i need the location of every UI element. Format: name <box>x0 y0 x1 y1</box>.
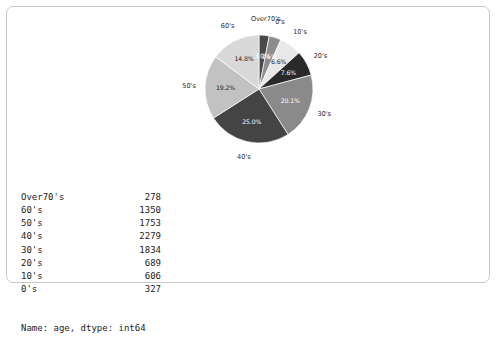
series-dtype-line: Name: age, dtype: int64 <box>21 322 161 335</box>
pie-percent-label-60s: 14.8% <box>234 56 253 62</box>
series-row: 40's2279 <box>21 230 161 243</box>
series-row-index: 10's <box>21 270 107 283</box>
series-row-value: 327 <box>107 283 161 296</box>
series-row-value: 1753 <box>107 217 161 230</box>
series-row: 20's689 <box>21 257 161 270</box>
series-row-index: 30's <box>21 244 107 257</box>
pie-category-label-20s: 20's <box>314 52 328 59</box>
series-row-value: 278 <box>107 191 161 204</box>
series-row-value: 2279 <box>107 230 161 243</box>
series-row-index: 60's <box>21 204 107 217</box>
pie-chart: 3.0%3.6%6.6%7.6%20.1%25.0%19.2%14.8% Ove… <box>167 15 352 165</box>
series-row-value: 1834 <box>107 244 161 257</box>
pie-category-label-60s: 60's <box>221 23 235 30</box>
pie-category-label-50s: 50's <box>182 83 196 90</box>
series-row-value: 1350 <box>107 204 161 217</box>
series-row: 30's1834 <box>21 244 161 257</box>
pie-percent-label-50s: 19.2% <box>216 85 235 91</box>
pie-category-label-30s: 30's <box>317 111 331 118</box>
series-row-index: 20's <box>21 257 107 270</box>
series-row: 0's327 <box>21 283 161 296</box>
series-row-value: 689 <box>107 257 161 270</box>
pie-category-label-10s: 10's <box>293 29 307 36</box>
pie-percent-label-30s: 20.1% <box>281 98 300 104</box>
series-row: 10's606 <box>21 270 161 283</box>
pie-category-label-0s: 0's <box>275 19 284 26</box>
series-row-value: 606 <box>107 270 161 283</box>
series-row-index: 50's <box>21 217 107 230</box>
pie-category-label-40s: 40's <box>237 154 251 161</box>
series-row-index: Over70's <box>21 191 107 204</box>
pie-percent-label-10s: 6.6% <box>271 59 286 65</box>
series-row-index: 0's <box>21 283 107 296</box>
series-row: 50's1753 <box>21 217 161 230</box>
series-row: Over70's278 <box>21 191 161 204</box>
output-cell-frame: 3.0%3.6%6.6%7.6%20.1%25.0%19.2%14.8% Ove… <box>6 6 490 283</box>
pie-percent-label-40s: 25.0% <box>242 119 261 125</box>
series-row-index: 40's <box>21 230 107 243</box>
pie-percent-label-20s: 7.6% <box>281 70 296 76</box>
series-text-output: Over70's27860's135050's175340's227930's1… <box>21 165 161 337</box>
series-row: 60's1350 <box>21 204 161 217</box>
series-rows: Over70's27860's135050's175340's227930's1… <box>21 191 161 296</box>
